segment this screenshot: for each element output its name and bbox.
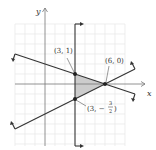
arrow-head-icon (11, 58, 15, 62)
arrow-head-icon (80, 144, 84, 148)
boundary-lines (10, 22, 135, 148)
label-point-6-0: (6, 0) (105, 57, 124, 65)
y-axis-label: y (35, 7, 41, 16)
svg-text:(3, −: (3, − (87, 105, 105, 113)
arrow-head-icon (131, 98, 135, 102)
vertex-3-1 (73, 72, 77, 76)
svg-text:3: 3 (109, 100, 112, 106)
label-point-3-1: (3, 1) (54, 47, 73, 55)
label-point-3-neg-3-2: (3, − 3 2 ) (87, 100, 117, 114)
x-axis-label: x (147, 89, 152, 98)
vertex-6-0 (103, 82, 107, 86)
arrow-head-icon (130, 61, 134, 65)
svg-text:2: 2 (109, 108, 112, 114)
svg-text:): ) (114, 105, 117, 113)
inequality-graph: x y (3, 1) (6, 0) (3, − 3 (0, 0, 156, 150)
vertex-3-neg1.5 (73, 97, 77, 101)
arrow-head-icon (80, 22, 84, 26)
arrow-head-icon (10, 121, 14, 125)
